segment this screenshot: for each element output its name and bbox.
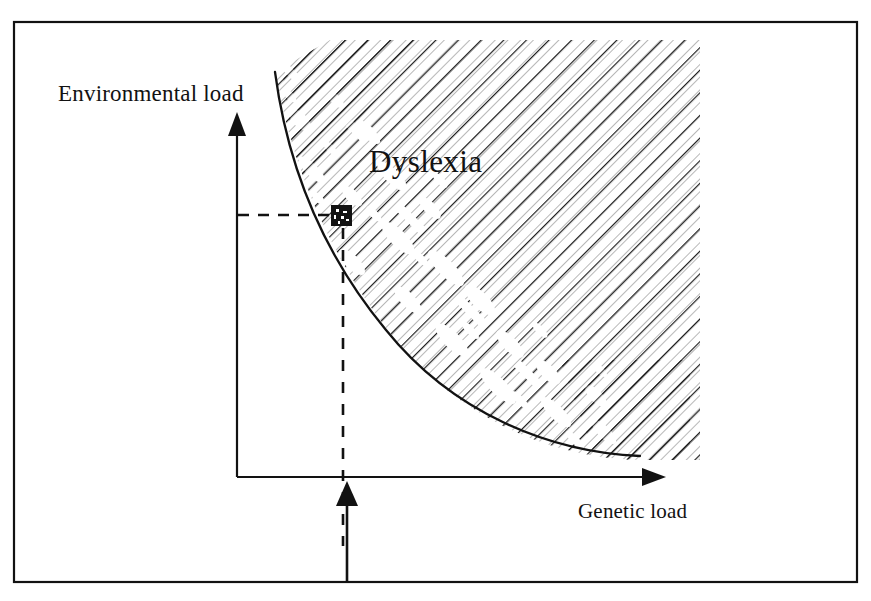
- x-axis: [237, 468, 666, 486]
- individual-case-marker: [331, 205, 352, 226]
- x-axis-label: Genetic load: [578, 501, 687, 522]
- figure-root: Environmental load Dyslexia Genetic load: [0, 0, 871, 601]
- pointer-arrow-up: [336, 481, 358, 583]
- y-axis-label: Environmental load: [58, 82, 244, 105]
- region-label-dyslexia: Dyslexia: [369, 146, 482, 177]
- y-axis: [228, 112, 246, 477]
